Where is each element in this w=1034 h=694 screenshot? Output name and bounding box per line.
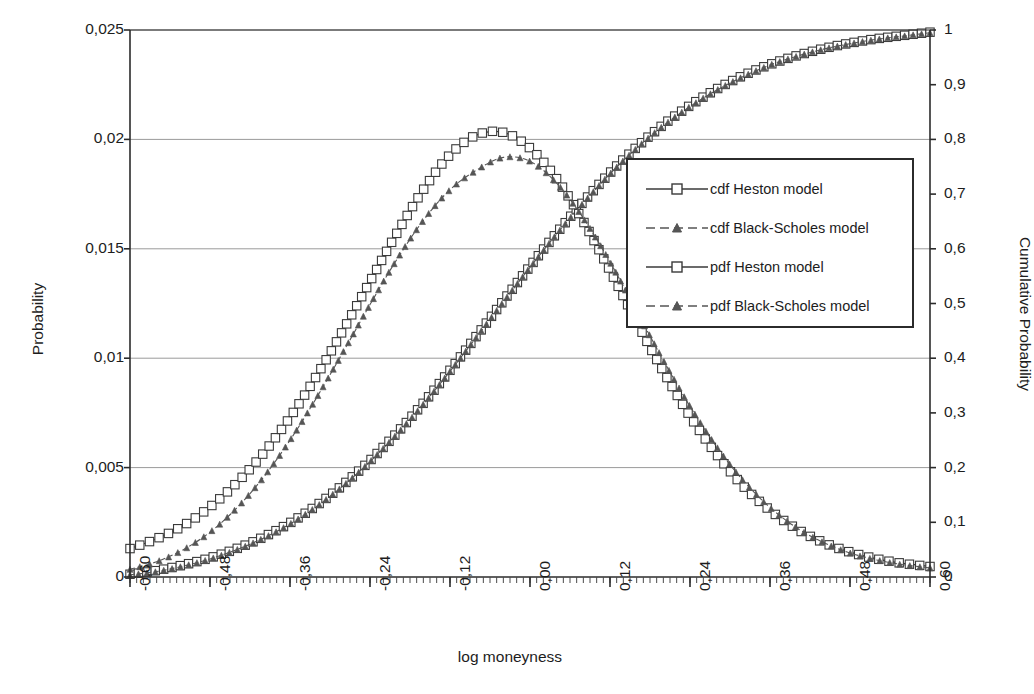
y-tick-label-right: 0,9 [944,75,984,93]
x-tick-label: 0,60 [936,561,954,591]
y-tick-label-right: 0,6 [944,239,984,257]
legend: cdf Heston modelcdf Black-Scholes modelp… [626,158,914,328]
y-tick-label-left: 0,015 [44,239,124,257]
y-tick-label-left: 0,01 [44,348,124,366]
y-axis-title-right: Cumulative Probability [1016,204,1034,424]
legend-item[interactable]: cdf Heston model [628,168,912,210]
x-tick-label: -0,60 [136,556,154,591]
x-tick-label: 0,24 [696,561,714,591]
y-tick-label-right: 0,4 [944,348,984,366]
legend-item-label: cdf Heston model [710,181,823,197]
x-tick-label: -0,24 [376,556,394,591]
x-tick-label: 0,36 [776,561,794,591]
legend-item[interactable]: pdf Black-Scholes model [628,285,912,327]
legend-item-label: pdf Black-Scholes model [710,298,870,314]
y-tick-label-left: 0,005 [44,458,124,476]
x-tick-label: -0,36 [296,556,314,591]
square-marker-icon [644,257,710,277]
x-tick-label: -0,12 [456,556,474,591]
y-tick-label-left: 0 [44,567,124,585]
y-tick-label-right: 0,3 [944,403,984,421]
x-tick-label: -0,48 [216,556,234,591]
y-tick-label-left: 0,025 [44,20,124,38]
y-tick-label-right: 0,5 [944,294,984,312]
legend-item[interactable]: pdf Heston model [628,246,912,288]
x-tick-label: 0,48 [856,561,874,591]
x-tick-label: 0,00 [536,561,554,591]
legend-item[interactable]: cdf Black-Scholes model [628,207,912,249]
triangle-marker-icon [644,218,710,238]
square-marker-icon [644,179,710,199]
y-tick-label-right: 0,2 [944,458,984,476]
x-tick-label: 0,12 [616,561,634,591]
y-tick-label-right: 0,1 [944,512,984,530]
y-tick-label-left: 0,02 [44,129,124,147]
x-axis-title: log moneyness [380,648,640,666]
y-tick-label-right: 0,8 [944,129,984,147]
legend-item-label: cdf Black-Scholes model [710,220,869,236]
triangle-marker-icon [644,296,710,316]
legend-item-label: pdf Heston model [710,259,824,275]
y-tick-label-right: 1 [944,20,984,38]
y-tick-label-right: 0,7 [944,184,984,202]
